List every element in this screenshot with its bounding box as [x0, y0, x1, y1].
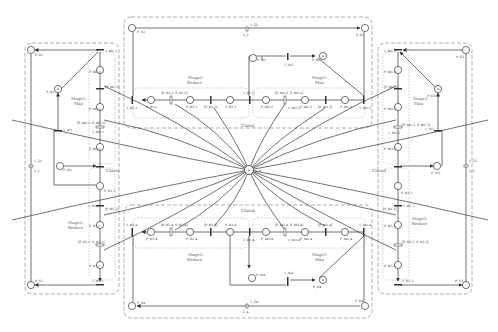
class3-stage-map-sublabel: Map — [414, 101, 423, 106]
class4-map-t3: [θ_M2,4, δ_M2,4] — [275, 223, 303, 227]
class4-start-label: P_S4 — [137, 301, 145, 305]
class4-reduce-t3: [θ_R2,4, δ_R2,4] — [161, 223, 187, 227]
class4-wait-place — [248, 274, 255, 281]
class4-start-place — [128, 302, 135, 309]
class3-wait-place — [433, 162, 440, 169]
class2-map-p1: P_M1,2 — [340, 105, 352, 109]
class1-stage-reduce-sublabel: Reduce — [68, 225, 84, 230]
class2-reduce-t4: T_R3,2 — [126, 106, 137, 110]
class3-net — [398, 50, 466, 285]
class1-lambda-label: λ_1 — [34, 169, 40, 173]
class2-map-p2: P_M2,2 — [300, 105, 312, 109]
class3-start-place — [462, 281, 469, 288]
class3-reduce-p2: P_R2,3 — [384, 224, 395, 228]
class3-reduce-p3: P_R3,3 — [384, 264, 395, 268]
class1-map-t3: [θ_M2,1, δ_M2,1] — [77, 121, 105, 125]
class1-end-label: P_E1 — [35, 53, 43, 57]
class3-label: Class3 — [372, 168, 386, 173]
class4-map-p1: P_M1,4 — [340, 237, 352, 241]
class3-reduce-t1: T_R1,3 — [403, 204, 414, 208]
class4-reduce-t4: T_R3,4 — [126, 223, 137, 227]
class3-map-t4: T_M3,3 — [388, 131, 400, 135]
class1-start-label: P_S1 — [35, 279, 43, 283]
class4-reduce-p3: P_R3,4 — [146, 237, 157, 241]
class4-reduce-p1: P_R1,4 — [225, 223, 236, 227]
class1-end-place — [27, 46, 34, 53]
class2-map-t4: T_M3,2 — [288, 106, 300, 110]
class3-think-label: P_R3 — [427, 94, 435, 98]
class3-map-p3: P_M3,3 — [384, 147, 396, 151]
class4-delay-label: T_Z4 — [250, 300, 258, 304]
class4-net — [133, 232, 364, 306]
class2-lambda-label: λ_2 — [243, 33, 249, 37]
class2-reduce-p3: P_R3,2 — [146, 105, 157, 109]
class3-reduce-t2: [θ_R1,3] — [383, 207, 396, 211]
class4-map-p2: P_M2,4 — [300, 237, 312, 241]
class1-map-p1: P_M1,1 — [89, 70, 101, 74]
class1-reduce-t1: T_R1,1 — [88, 204, 99, 208]
class3-wait-transition-label: T_W3 — [425, 127, 434, 131]
class1-reduce-t3: [θ_R2,1, δ_R2,1] — [78, 240, 104, 244]
class2-label: Class2 — [241, 123, 255, 128]
class4-label: Class4 — [241, 208, 255, 213]
class1-reduce-p1: P_R1,1 — [104, 189, 115, 193]
class1-wait-label: P_W1 — [63, 168, 72, 172]
class4-map-t2: [θ_M1,4] — [318, 223, 332, 227]
petri-net-diagram: Class2 Class4 Class1 Class3 Stage2: Redu… — [0, 0, 498, 332]
class4-end-place — [361, 302, 368, 309]
class3-stage-reduce-sublabel: Reduce — [412, 221, 428, 226]
class3-think-tokens: 4 — [437, 87, 439, 91]
class3-map-t1: T_M1,3 — [384, 49, 396, 53]
class3-container — [378, 43, 472, 294]
class2-reduce-t1: T_R1,2 — [243, 91, 254, 95]
class4-stage-reduce-sublabel: Reduce — [187, 257, 203, 262]
class1-reduce-p3: P_R3,1 — [89, 264, 100, 268]
class3-delay-label: T_Z3 — [469, 159, 477, 163]
class3-lambda-label: λ_3 — [469, 169, 475, 173]
class4-think-tokens: 4 — [322, 278, 324, 282]
class3-end-label: P_E3 — [456, 55, 464, 59]
class2-start-place — [128, 24, 135, 31]
class1-think-tokens: 4 — [57, 87, 59, 91]
class2-map-t2: [θ_M1,2] — [318, 105, 332, 109]
class1-think-label: P_R1 — [46, 90, 54, 94]
class4-lambda-label: λ_4 — [243, 310, 249, 314]
class2-wait-place — [249, 54, 256, 61]
class2-stage-reduce-sublabel: Reduce — [187, 80, 203, 85]
center-place-label: p_R — [255, 169, 262, 173]
class4-map-t1: T_M1,4 — [359, 223, 371, 227]
class2-delay-label: T_Z2 — [250, 23, 258, 27]
class2-think-label: P_R2 — [312, 58, 320, 62]
class1-reduce-t2: [θ_R1,1] — [105, 207, 118, 211]
class1-reduce-p2: P_R2,1 — [89, 224, 100, 228]
class2-reduce-t2: [θ_R1,2] — [204, 105, 217, 109]
class4-reduce-t1: T_R1,4 — [243, 238, 254, 242]
class2-wait-transition-label: T_W2 — [284, 63, 293, 67]
class2-wait-label: P_W2 — [257, 58, 266, 62]
class2-end-label: P_E2 — [356, 33, 364, 37]
class1-start-place — [27, 281, 34, 288]
class1-label: Class1 — [106, 168, 120, 173]
class2-map-t3: [θ_M2,2, δ_M2,2] — [275, 91, 303, 95]
class1-wait-transition-label: T_W1 — [63, 128, 72, 132]
class1-map-p3: P_M3,1 — [89, 147, 101, 151]
class2-reduce-t3: [θ_R2,2, δ_R2,2] — [161, 91, 187, 95]
class4-wait-label: P_W4 — [256, 273, 265, 277]
class1-stage-map-sublabel: Map — [74, 101, 83, 106]
class3-places — [394, 46, 469, 288]
class2-reduce-p2: P_R2,2 — [186, 105, 197, 109]
class3-reduce-t3: [θ_R2,3, δ_R2,3] — [402, 240, 428, 244]
class1-delay-label: T_Z1 — [34, 159, 42, 163]
class2-think-tokens: 4 — [322, 54, 324, 58]
class2-stage-map-sublabel: Map — [315, 80, 324, 85]
center-token-count: 4 — [248, 168, 250, 172]
class3-reduce-t4: T_R3,3 — [402, 279, 413, 283]
class2-start-label: P_S2 — [137, 30, 145, 34]
class2-map-t1: T_M1,2 — [359, 106, 371, 110]
class1-map-t4: T_M3,1 — [92, 130, 104, 134]
class2-end-place — [361, 24, 368, 31]
class4-reduce-p2: P_R2,4 — [186, 237, 197, 241]
class1-map-t2: [θ_M1,1] — [105, 85, 119, 89]
class3-map-t3: [θ_M2,3, δ_M2,3] — [402, 123, 430, 127]
class4-map-p3: P_M3,4 — [261, 237, 273, 241]
